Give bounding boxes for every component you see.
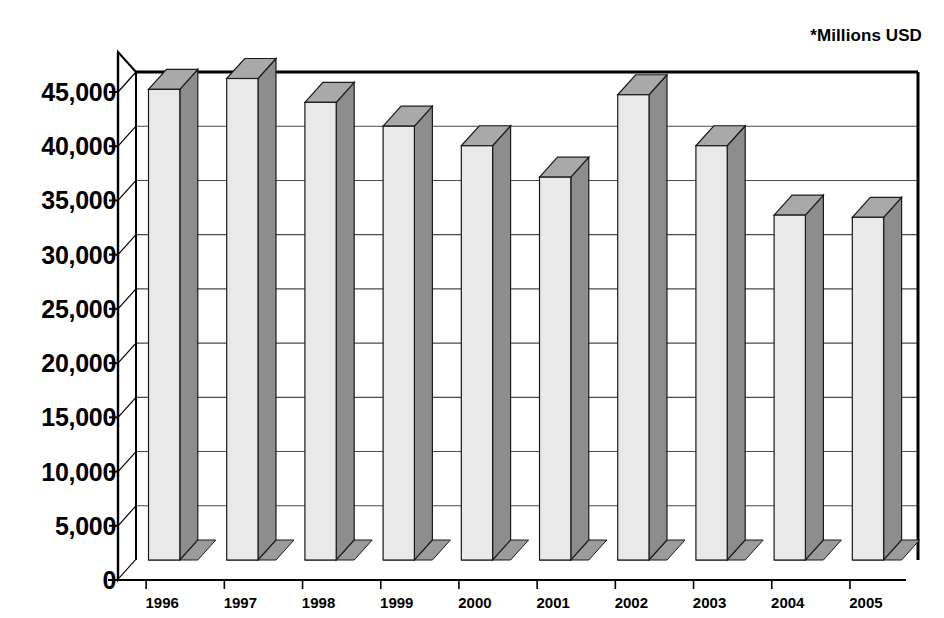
bar-side-face bbox=[336, 82, 354, 560]
bar-side-face bbox=[884, 197, 902, 560]
bar-side-face bbox=[414, 106, 432, 560]
bar-front-face bbox=[227, 79, 258, 560]
bar-front-face bbox=[305, 102, 336, 560]
bar-chart: *Millions USD 05,00010,00015,00020,00025… bbox=[0, 0, 944, 618]
bar-side-face bbox=[805, 195, 823, 560]
bar-front-face bbox=[540, 177, 571, 560]
bar-side-face bbox=[727, 126, 745, 560]
bar-side-face bbox=[493, 126, 511, 560]
bar-front-face bbox=[149, 89, 180, 560]
bar-front-face bbox=[618, 95, 649, 560]
bar-front-face bbox=[852, 217, 883, 560]
bar-side-face bbox=[649, 75, 667, 560]
bar-side-face bbox=[180, 69, 198, 560]
bar-front-face bbox=[461, 146, 492, 560]
bar-side-face bbox=[571, 157, 589, 560]
bar-front-face bbox=[696, 146, 727, 560]
bar-side-face bbox=[258, 59, 276, 560]
plot-area bbox=[0, 0, 944, 618]
axis-side-wall bbox=[118, 52, 136, 580]
plot-floor bbox=[118, 560, 918, 580]
bar-front-face bbox=[774, 215, 805, 560]
bar-front-face bbox=[383, 126, 414, 560]
